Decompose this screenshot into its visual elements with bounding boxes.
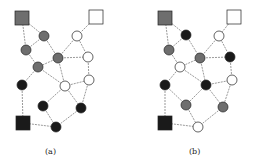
gray-circle-node (181, 100, 191, 110)
white-circle-node (83, 52, 93, 62)
panel-a (15, 10, 103, 132)
graph-figure (0, 0, 254, 165)
gray-square-node (158, 11, 172, 25)
white-square-node (227, 10, 241, 24)
black-circle-node (201, 80, 211, 90)
white-circle-node (72, 31, 82, 41)
white-circle-node (214, 31, 224, 41)
black-circle-node (160, 80, 170, 90)
gray-circle-node (218, 102, 228, 112)
gray-circle-node (21, 45, 31, 55)
black-square-node (16, 116, 30, 130)
white-square-node (89, 10, 103, 24)
panel-b-label: (b) (189, 147, 200, 156)
white-circle-node (193, 122, 203, 132)
gray-circle-node (164, 45, 174, 55)
white-circle-node (227, 75, 237, 85)
gray-circle-node (33, 62, 43, 72)
gray-circle-node (53, 53, 63, 63)
black-circle-node (51, 122, 61, 132)
panel-a-label: (a) (45, 147, 56, 156)
black-square-node (158, 116, 172, 130)
black-circle-node (181, 30, 191, 40)
white-circle-node (60, 81, 70, 91)
black-circle-node (76, 103, 86, 113)
gray-circle-node (195, 53, 205, 63)
white-circle-node (175, 62, 185, 72)
black-circle-node (225, 52, 235, 62)
panel-b (158, 10, 241, 132)
white-circle-node (84, 75, 94, 85)
black-circle-node (38, 101, 48, 111)
gray-circle-node (39, 31, 49, 41)
gray-square-node (15, 11, 29, 25)
black-circle-node (17, 80, 27, 90)
